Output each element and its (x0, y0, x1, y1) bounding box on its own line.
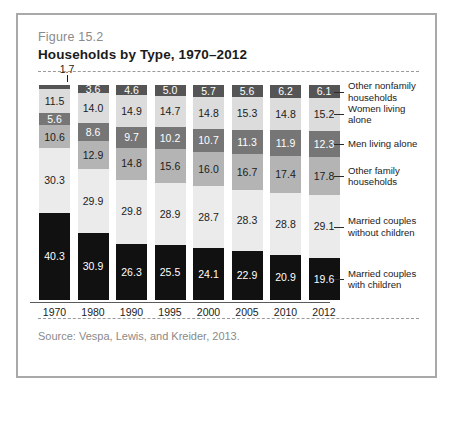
bar-segment-value: 12.3 (314, 139, 334, 150)
bar-segment-value: 28.9 (160, 209, 180, 220)
bar-segment: 15.6 (155, 149, 186, 183)
bar-segment: 5.6 (39, 113, 70, 125)
x-axis-line (30, 302, 330, 303)
bar-segment: 14.0 (78, 93, 109, 123)
bar-segment-value: 25.5 (160, 267, 180, 278)
bar-segment: 28.3 (232, 190, 263, 251)
bar-segment: 22.9 (232, 251, 263, 300)
bar-segment-value: 5.7 (201, 86, 216, 97)
source-note: Source: Vespa, Lewis, and Kreider, 2013. (38, 330, 240, 342)
bar-segment: 14.8 (270, 98, 301, 130)
bar-segment: 5.6 (232, 85, 263, 97)
bar-segment: 11.9 (270, 130, 301, 156)
bar-segment-value: 26.3 (121, 267, 141, 278)
legend-label: Married couples (348, 268, 434, 279)
x-tick-2000: 2000 (193, 306, 224, 318)
legend-connector-line (334, 176, 344, 177)
legend-label-line2: alone (348, 114, 434, 125)
bar-segment-value: 6.1 (317, 86, 332, 97)
bar-segment: 16.0 (193, 152, 224, 186)
bar-segment-value: 14.0 (83, 103, 103, 114)
legend-item-3[interactable]: Other familyhouseholds (348, 165, 434, 188)
bar-segment-value: 5.6 (240, 86, 255, 97)
x-tick-2012: 2012 (309, 306, 340, 318)
x-tick-1995: 1995 (155, 306, 186, 318)
x-tick-2010: 2010 (270, 306, 301, 318)
callout-leader-line (67, 75, 68, 82)
bar-segment-value: 15.3 (237, 108, 257, 119)
bar-segment: 3.6 (78, 85, 109, 93)
bar-segment: 26.3 (116, 244, 147, 300)
legend-item-1[interactable]: Women livingalone (348, 103, 434, 126)
bar-column-2000[interactable]: 5.714.810.716.028.724.1 (193, 85, 224, 300)
bar-segment-value: 14.8 (198, 108, 218, 119)
legend-item-2[interactable]: Men living alone (348, 138, 434, 149)
bar-segment: 15.3 (232, 97, 263, 130)
legend-label: Men living alone (348, 138, 434, 149)
bar-segment: 17.4 (270, 156, 301, 193)
bar-segment: 28.7 (193, 186, 224, 248)
bar-column-1995[interactable]: 5.014.710.215.628.925.5 (155, 85, 186, 300)
bar-segment-value: 10.7 (198, 135, 218, 146)
bar-segment-value: 19.6 (314, 274, 334, 285)
bar-segment-value: 9.7 (124, 132, 139, 143)
bar-segment-value: 30.9 (83, 261, 103, 272)
legend-label-line2: without children (348, 227, 434, 238)
bar-column-1980[interactable]: 3.614.08.612.929.930.9 (78, 85, 109, 300)
bar-segment: 28.9 (155, 183, 186, 245)
bar-segment-value: 24.1 (198, 269, 218, 280)
figure-frame: Figure 15.2 Households by Type, 1970–201… (16, 13, 437, 378)
bar-segment-value: 15.6 (160, 161, 180, 172)
bar-segment-value: 17.8 (314, 171, 334, 182)
bar-segment-value: 8.6 (86, 127, 101, 138)
legend-label-line2: households (348, 176, 434, 187)
divider-bottom (38, 318, 419, 319)
legend-label-line2: with children (348, 279, 434, 290)
legend-item-0[interactable]: Other nonfamilyhouseholds (348, 80, 434, 103)
bar-segment: 14.8 (193, 97, 224, 129)
bar-segment-value: 10.6 (44, 132, 64, 143)
bar-segment-value: 10.2 (160, 133, 180, 144)
bar-segment-value: 17.4 (275, 169, 295, 180)
x-tick-1990: 1990 (116, 306, 147, 318)
legend-item-4[interactable]: Married coupleswithout children (348, 215, 434, 238)
bar-segment-value: 28.3 (237, 215, 257, 226)
bar-column-2010[interactable]: 6.214.811.917.428.820.9 (270, 85, 301, 300)
stacked-bar-plot: 1.71.711.55.610.630.340.33.614.08.612.92… (30, 85, 330, 300)
bar-segment-value: 14.7 (160, 106, 180, 117)
bar-segment: 12.9 (78, 141, 109, 169)
legend-connector-line (334, 279, 344, 280)
legend-item-5[interactable]: Married coupleswith children (348, 268, 434, 291)
legend-label: Other nonfamily (348, 80, 434, 91)
bar-segment-value: 29.8 (121, 206, 141, 217)
legend-connector-line (334, 144, 344, 145)
bar-column-1990[interactable]: 4.614.99.714.829.826.3 (116, 85, 147, 300)
figure-number: Figure 15.2 (38, 30, 103, 44)
legend-connector-line (334, 227, 344, 228)
figure-title: Households by Type, 1970–2012 (38, 47, 247, 62)
bar-segment: 29.8 (116, 180, 147, 244)
legend-label: Women living (348, 103, 434, 114)
bar-segment-value: 12.9 (83, 150, 103, 161)
bar-segment-value: 28.8 (275, 219, 295, 230)
bar-segment: 5.7 (193, 85, 224, 97)
bar-segment-value: 29.9 (83, 196, 103, 207)
bar-column-1970[interactable]: 1.71.711.55.610.630.340.3 (39, 85, 70, 300)
bar-segment-value: 28.7 (198, 212, 218, 223)
bar-segment: 28.8 (270, 193, 301, 255)
bar-segment: 30.3 (39, 148, 70, 213)
bar-segment-value: 11.5 (45, 96, 65, 107)
bar-segment-value: 22.9 (237, 270, 257, 281)
legend-label-line2: households (348, 92, 434, 103)
bar-segment-value: 20.9 (275, 272, 295, 283)
bar-segment: 16.7 (232, 154, 263, 190)
x-tick-1980: 1980 (78, 306, 109, 318)
bar-segment: 9.7 (116, 127, 147, 148)
legend-connector-line (334, 92, 344, 93)
bar-segment: 14.7 (155, 96, 186, 128)
chart-legend: Other nonfamilyhouseholdsWomen livingalo… (334, 85, 434, 300)
bar-segment: 11.3 (232, 130, 263, 154)
bar-segment: 20.9 (270, 255, 301, 300)
bar-segment-value: 40.3 (44, 251, 64, 262)
bar-column-2005[interactable]: 5.615.311.316.728.322.9 (232, 85, 263, 300)
